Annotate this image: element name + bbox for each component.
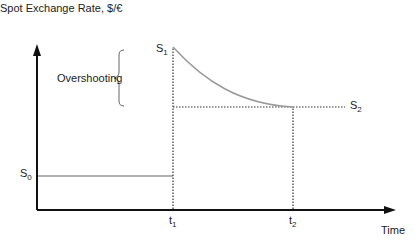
overshooting-annotation: Overshooting — [57, 72, 122, 85]
t2-tick-label: t2 — [289, 214, 297, 228]
y-axis-title: Spot Exchange Rate, $/€ — [0, 2, 84, 15]
y-axis-arrow-icon — [33, 44, 41, 56]
s2-label: S2 — [350, 99, 362, 113]
overshoot-decay-curve — [173, 47, 293, 107]
x-axis-arrow-icon — [384, 206, 396, 214]
x-axis-title: Time — [381, 224, 405, 237]
s0-label: S0 — [20, 167, 32, 181]
s1-label: S1 — [156, 42, 168, 56]
chart-canvas — [0, 0, 419, 241]
t1-tick-label: t1 — [169, 214, 177, 228]
